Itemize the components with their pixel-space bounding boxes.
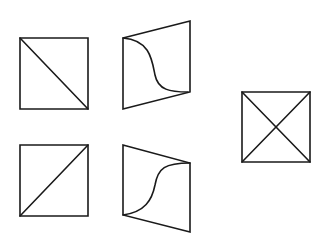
diagram-canvas	[0, 0, 330, 244]
square-diag-tl-br	[20, 38, 88, 109]
s-curve	[123, 38, 188, 92]
square-both-diagonals	[242, 92, 310, 162]
diagonal-line	[20, 38, 88, 109]
square-diag-bl-tr	[20, 145, 88, 216]
parallelogram-outline	[123, 21, 190, 109]
parallelogram-outline	[123, 145, 190, 232]
diagonal-line	[20, 145, 88, 216]
s-curve	[123, 163, 190, 215]
parallelogram-curve-bottom	[123, 145, 190, 232]
parallelogram-curve-top	[123, 21, 190, 109]
